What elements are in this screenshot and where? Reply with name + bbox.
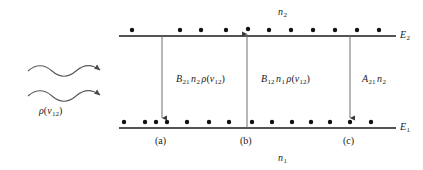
incident-close-paren: ) — [59, 105, 62, 116]
einstein-coefficients-diagram: n2 E2 E1 n1 B21n2ρ(ν12) B12n1ρ(ν12) A21n… — [0, 0, 423, 170]
lower-energy-label: E1 — [400, 122, 410, 132]
population-dot — [154, 120, 158, 124]
population-dot — [369, 120, 373, 124]
population-dot — [122, 120, 126, 124]
population-dot — [355, 28, 359, 32]
population-dot — [185, 120, 189, 124]
population-dot — [377, 28, 381, 32]
incident-radiation-waves — [28, 66, 100, 102]
population-dot — [333, 28, 337, 32]
upper-population-subscript: 2 — [283, 11, 287, 19]
rate-b-coefficient-subscript: 12 — [267, 78, 274, 86]
population-dot — [311, 28, 315, 32]
incident-density-subscript: 12 — [52, 110, 59, 118]
rate-c-coefficient-subscript: 21 — [368, 78, 375, 86]
rate-label-a: B21n2ρ(ν12) — [176, 74, 225, 84]
population-dot — [289, 28, 293, 32]
rate-a-population-subscript: 2 — [196, 78, 200, 86]
population-dot — [224, 28, 228, 32]
population-dot — [207, 120, 211, 124]
case-label-c: (c) — [343, 136, 354, 146]
incident-density-variable: ν — [47, 105, 51, 116]
population-dot — [178, 28, 182, 32]
population-dot — [143, 120, 147, 124]
lower-population-subscript: 1 — [283, 157, 287, 165]
diagram-canvas — [0, 0, 423, 170]
upper-energy-label: E2 — [400, 30, 410, 40]
energy-level-lines — [119, 36, 396, 128]
population-dot — [130, 28, 134, 32]
case-label-a: (a) — [155, 136, 166, 146]
population-dot — [246, 27, 250, 31]
population-dot — [267, 28, 271, 32]
rate-c-population-subscript: 2 — [382, 78, 386, 86]
population-dot — [199, 28, 203, 32]
rate-a-density-subscript: 12 — [214, 78, 221, 86]
incident-wave — [28, 66, 100, 77]
rate-b-density-subscript: 12 — [299, 78, 306, 86]
upper-energy-subscript: 2 — [406, 34, 410, 42]
rate-label-b: B12n1ρ(ν12) — [261, 74, 310, 84]
lower-energy-subscript: 1 — [406, 126, 410, 134]
rate-a-coefficient-subscript: 21 — [182, 78, 189, 86]
incident-radiation-label: ρ(ν12) — [39, 106, 62, 116]
upper-population-label: n2 — [278, 7, 287, 17]
population-dot — [328, 120, 332, 124]
rate-a-close-paren: ) — [222, 73, 225, 84]
case-label-b: (b) — [240, 136, 252, 146]
rate-label-c: A21n2 — [362, 74, 386, 84]
population-dot — [165, 120, 169, 124]
lower-population-label: n1 — [278, 153, 287, 163]
population-dot — [270, 120, 274, 124]
population-dot — [348, 120, 352, 124]
rate-b-close-paren: ) — [307, 73, 310, 84]
population-dot — [309, 120, 313, 124]
population-dot — [290, 120, 294, 124]
rate-b-population-subscript: 1 — [281, 78, 285, 86]
population-dot — [227, 120, 231, 124]
incident-wave — [28, 91, 100, 102]
population-dot — [250, 120, 254, 124]
upper-level-population-dots — [130, 27, 381, 32]
